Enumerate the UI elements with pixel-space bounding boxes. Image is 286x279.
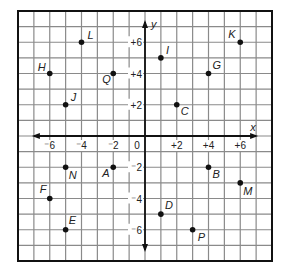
- point-b: [206, 164, 212, 170]
- y-tick-label: ⁻6: [131, 225, 142, 236]
- point-label-k: K: [228, 28, 236, 40]
- y-tick-label: ⁻2: [131, 162, 142, 173]
- x-axis-left-arrow-icon: [32, 133, 40, 139]
- point-g: [206, 71, 212, 77]
- point-c: [174, 102, 180, 108]
- point-label-h: H: [38, 61, 46, 73]
- point-label-m: M: [243, 185, 253, 197]
- point-p: [190, 227, 196, 233]
- point-i: [158, 55, 164, 61]
- point-label-j: J: [70, 91, 77, 103]
- point-label-q: Q: [102, 73, 111, 85]
- point-label-c: C: [181, 105, 189, 117]
- y-axis-up-arrow-icon: [142, 20, 148, 28]
- x-tick-label: +4: [203, 140, 215, 151]
- point-n: [63, 164, 69, 170]
- x-tick-label: +6: [235, 140, 247, 151]
- coordinate-grid: xy ⁻6⁻4⁻2+2+4+60+6+4+2⁻2⁻4⁻6 LHQJIKGCNAF…: [0, 0, 286, 279]
- point-label-e: E: [69, 214, 77, 226]
- x-axis-label: x: [249, 121, 256, 133]
- point-label-p: P: [198, 231, 206, 243]
- x-axis-right-arrow-icon: [250, 133, 258, 139]
- point-d: [158, 211, 164, 217]
- point-label-d: D: [165, 199, 173, 211]
- x-tick-label: ⁻6: [44, 140, 55, 151]
- point-label-g: G: [213, 59, 222, 71]
- y-tick-label: ⁻4: [131, 194, 142, 205]
- point-e: [63, 227, 69, 233]
- point-label-n: N: [69, 169, 77, 181]
- point-f: [47, 196, 53, 202]
- y-tick-label: +6: [131, 37, 143, 48]
- y-tick-label: +2: [131, 100, 143, 111]
- point-l: [79, 39, 85, 45]
- point-k: [237, 39, 243, 45]
- point-j: [63, 102, 69, 108]
- point-m: [237, 180, 243, 186]
- point-label-a: A: [101, 167, 109, 179]
- point-a: [110, 164, 116, 170]
- x-tick-label: ⁻2: [108, 140, 119, 151]
- y-axis-down-arrow-icon: [142, 244, 148, 252]
- x-tick-label: ⁻4: [76, 140, 87, 151]
- y-axis-label: y: [150, 18, 158, 30]
- x-tick-label: +2: [171, 140, 183, 151]
- y-tick-label: +4: [131, 69, 143, 80]
- point-label-f: F: [40, 183, 48, 195]
- point-label-b: B: [213, 168, 220, 180]
- point-label-i: I: [166, 44, 169, 56]
- point-h: [47, 71, 53, 77]
- origin-label: 0: [134, 140, 140, 151]
- point-label-l: L: [88, 29, 94, 41]
- point-q: [110, 71, 116, 77]
